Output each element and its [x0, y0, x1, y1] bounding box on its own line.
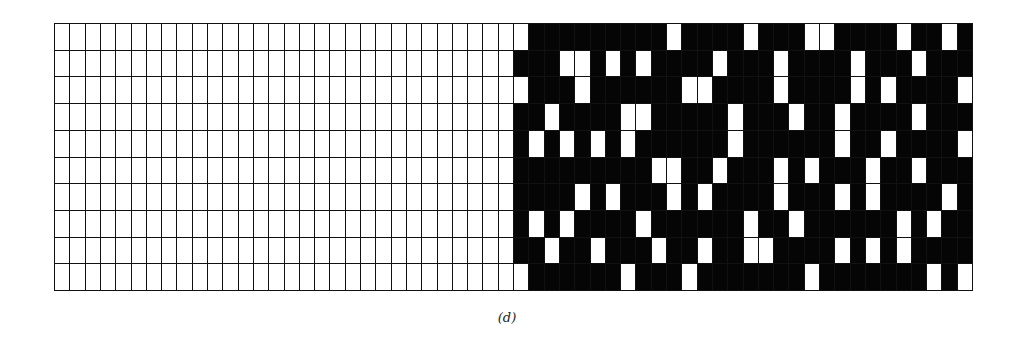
grid-cell-dark	[636, 24, 651, 51]
grid-cell-light	[177, 211, 192, 238]
grid-cell-light	[958, 131, 973, 158]
grid-cell-dark	[545, 77, 560, 104]
grid-cell-dark	[774, 211, 789, 238]
grid-cell-dark	[744, 184, 759, 211]
grid-cell-dark	[805, 77, 820, 104]
grid-cell-light	[86, 77, 101, 104]
grid-cell-dark	[545, 211, 560, 238]
grid-cell-dark	[942, 51, 957, 78]
grid-cell-dark	[912, 77, 927, 104]
grid-cell-light	[376, 24, 391, 51]
grid-cell-light	[315, 184, 330, 211]
grid-cell-light	[728, 131, 743, 158]
grid-cell-light	[942, 24, 957, 51]
grid-cell-dark	[789, 77, 804, 104]
grid-cell-dark	[575, 24, 590, 51]
grid-cell-dark	[789, 24, 804, 51]
grid-cell-light	[132, 24, 147, 51]
grid-cell-light	[254, 184, 269, 211]
grid-cell-dark	[560, 184, 575, 211]
grid-cell-light	[591, 131, 606, 158]
grid-cell-light	[177, 184, 192, 211]
grid-cell-light	[285, 264, 300, 291]
grid-cell-light	[116, 77, 131, 104]
grid-cell-light	[575, 77, 590, 104]
grid-cell-dark	[636, 77, 651, 104]
grid-cell-dark	[851, 211, 866, 238]
grid-cell-light	[422, 211, 437, 238]
grid-cell-light	[300, 264, 315, 291]
grid-cell-dark	[759, 211, 774, 238]
grid-cell-light	[453, 51, 468, 78]
grid-cell-light	[346, 158, 361, 185]
grid-cell-light	[177, 158, 192, 185]
grid-cell-light	[116, 264, 131, 291]
grid-cell-light	[70, 24, 85, 51]
grid-cell-dark	[927, 51, 942, 78]
grid-cell-light	[86, 158, 101, 185]
grid-cell-light	[330, 77, 345, 104]
grid-cell-light	[453, 264, 468, 291]
grid-cell-dark	[606, 238, 621, 265]
grid-cell-dark	[759, 51, 774, 78]
grid-cell-light	[285, 24, 300, 51]
grid-cell-light	[346, 24, 361, 51]
grid-cell-dark	[958, 158, 973, 185]
grid-cell-light	[866, 158, 881, 185]
grid-cell-light	[438, 131, 453, 158]
grid-cell-light	[147, 184, 162, 211]
grid-cell-light	[361, 211, 376, 238]
grid-cell-dark	[514, 104, 529, 131]
grid-cell-light	[177, 51, 192, 78]
grid-cell-light	[698, 238, 713, 265]
grid-cell-light	[254, 77, 269, 104]
grid-cell-light	[346, 104, 361, 131]
grid-cell-light	[483, 184, 498, 211]
grid-cell-dark	[728, 238, 743, 265]
grid-cell-light	[789, 104, 804, 131]
grid-cell-light	[223, 158, 238, 185]
grid-cell-light	[162, 51, 177, 78]
grid-cell-dark	[912, 264, 927, 291]
grid-cell-dark	[881, 264, 896, 291]
grid-cell-light	[514, 24, 529, 51]
grid-cell-dark	[897, 264, 912, 291]
grid-cell-light	[300, 158, 315, 185]
grid-cell-light	[835, 131, 850, 158]
grid-cell-light	[132, 184, 147, 211]
grid-cell-light	[315, 104, 330, 131]
grid-cell-light	[499, 211, 514, 238]
grid-cell-light	[70, 211, 85, 238]
grid-cell-light	[330, 104, 345, 131]
grid-cell-light	[636, 51, 651, 78]
grid-cell-light	[55, 51, 70, 78]
grid-cell-dark	[529, 264, 544, 291]
grid-cell-dark	[575, 264, 590, 291]
grid-cell-dark	[575, 211, 590, 238]
grid-cell-dark	[851, 24, 866, 51]
grid-cell-dark	[606, 158, 621, 185]
grid-cell-dark	[606, 24, 621, 51]
grid-cell-light	[376, 51, 391, 78]
grid-cell-dark	[897, 51, 912, 78]
grid-cell-light	[483, 211, 498, 238]
grid-cell-dark	[851, 158, 866, 185]
grid-cell-dark	[789, 158, 804, 185]
grid-cell-light	[193, 211, 208, 238]
grid-cell-dark	[652, 184, 667, 211]
grid-cell-light	[70, 264, 85, 291]
grid-cell-light	[254, 158, 269, 185]
grid-cell-light	[820, 24, 835, 51]
grid-cell-light	[55, 104, 70, 131]
grid-cell-dark	[560, 264, 575, 291]
grid-cell-light	[575, 184, 590, 211]
grid-cell-light	[101, 184, 116, 211]
grid-cell-dark	[682, 158, 697, 185]
grid-cell-light	[529, 131, 544, 158]
grid-cell-dark	[713, 131, 728, 158]
grid-cell-light	[468, 184, 483, 211]
grid-cell-dark	[621, 77, 636, 104]
grid-cell-dark	[621, 211, 636, 238]
grid-cell-light	[774, 158, 789, 185]
grid-cell-light	[422, 77, 437, 104]
